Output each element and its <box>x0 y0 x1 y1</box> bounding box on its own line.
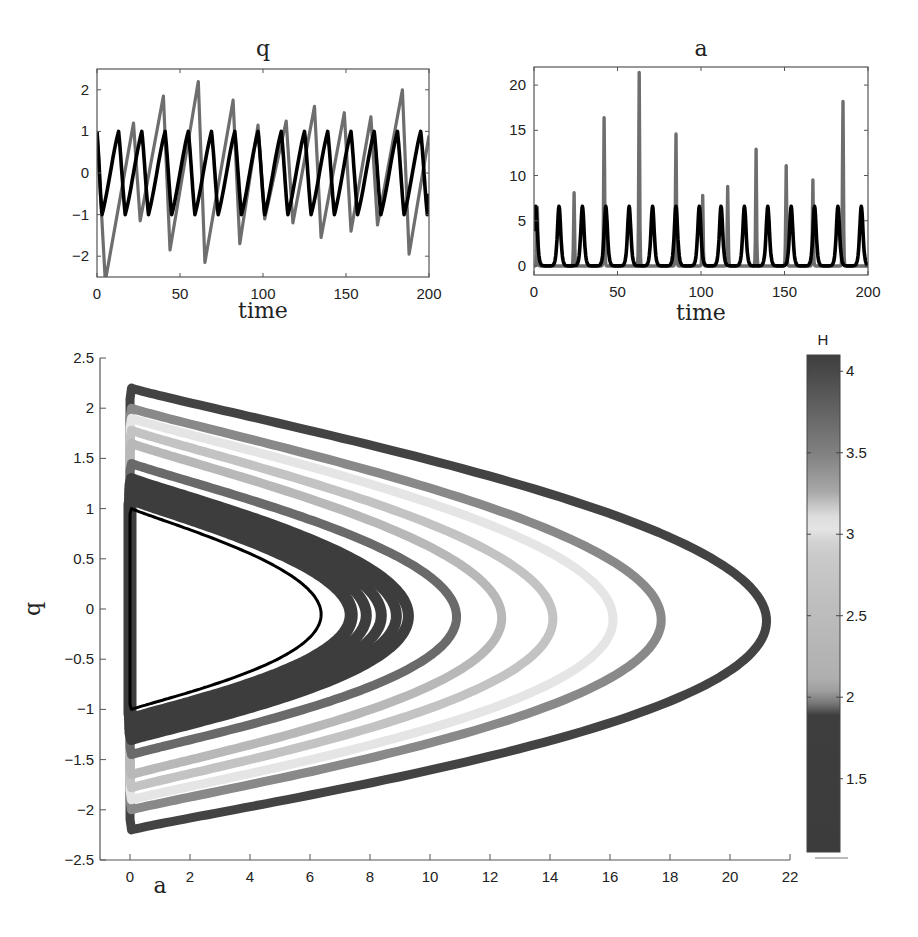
phase-portrait-plot: 0246810121416182022−2.5−2−1.5−1−0.500.51… <box>20 349 798 898</box>
y-tick-label: 5 <box>518 212 526 229</box>
y-tick-label: 2.5 <box>73 349 94 366</box>
x-tick-label: 200 <box>416 285 441 302</box>
y-tick-label: 2 <box>81 81 89 98</box>
x-tick-label: 50 <box>172 285 189 302</box>
x-tick-label: 20 <box>722 868 739 885</box>
y-tick-label: 0 <box>86 600 94 617</box>
y-tick-label: 1.5 <box>73 449 94 466</box>
x-tick-label: 150 <box>772 283 797 300</box>
y-tick-label: 2 <box>86 399 94 416</box>
x-tick-label: 100 <box>688 283 713 300</box>
colorbar-tick-label: 3 <box>846 525 854 542</box>
q-plot-xlabel: time <box>238 298 288 323</box>
x-tick-label: 2 <box>186 868 194 885</box>
x-tick-label: 0 <box>126 868 134 885</box>
x-tick-label: 150 <box>333 285 358 302</box>
y-tick-label: 10 <box>509 167 526 184</box>
colorbar-tick-label: 2.5 <box>846 607 867 624</box>
x-tick-label: 12 <box>482 868 499 885</box>
y-tick-label: 0.5 <box>73 550 94 567</box>
x-tick-label: 18 <box>662 868 679 885</box>
x-tick-label: 6 <box>306 868 314 885</box>
a-plot-xlabel: time <box>676 300 726 325</box>
y-tick-label: 20 <box>509 76 526 93</box>
colorbar-tick-label: 4 <box>846 362 854 379</box>
y-tick-label: −2 <box>72 247 89 264</box>
figure: q 050100150200−2−1012 time a 05010015020… <box>0 0 918 937</box>
y-tick-label: −2 <box>77 801 94 818</box>
y-tick-label: −1.5 <box>64 751 94 768</box>
y-tick-label: −0.5 <box>64 650 94 667</box>
phase-orbits <box>130 388 767 830</box>
y-tick-label: 0 <box>518 257 526 274</box>
phase-xlabel: a <box>153 873 166 898</box>
x-tick-label: 14 <box>542 868 559 885</box>
colorbar-tick-label: 3.5 <box>846 444 867 461</box>
x-tick-label: 50 <box>609 283 626 300</box>
y-tick-label: 1 <box>86 500 94 517</box>
x-tick-label: 0 <box>93 285 101 302</box>
periodic-series-line <box>97 131 429 214</box>
colorbar-tick-label: 1.5 <box>846 770 867 787</box>
x-tick-label: 16 <box>602 868 619 885</box>
q-plot-title: q <box>256 36 270 61</box>
y-tick-label: 1 <box>81 122 89 139</box>
x-tick-label: 200 <box>855 283 880 300</box>
y-tick-label: 0 <box>81 164 89 181</box>
colorbar-gradient <box>807 355 840 852</box>
a-plot-series <box>534 72 868 266</box>
x-tick-label: 8 <box>366 868 374 885</box>
colorbar: H 1.522.533.54 <box>807 331 867 858</box>
y-tick-label: −1 <box>72 206 89 223</box>
q-plot-series <box>97 82 429 282</box>
colorbar-label: H <box>818 331 829 348</box>
y-tick-label: −1 <box>77 700 94 717</box>
y-tick-label: −2.5 <box>64 851 94 868</box>
x-tick-label: 0 <box>530 283 538 300</box>
a-plot-title: a <box>694 36 707 61</box>
q-time-plot: q 050100150200−2−1012 time <box>72 36 442 323</box>
colorbar-tick-label: 2 <box>846 688 854 705</box>
x-tick-label: 4 <box>246 868 254 885</box>
a-time-plot: a 05010015020005101520 time <box>509 36 880 325</box>
y-tick-label: 15 <box>509 121 526 138</box>
phase-ylabel: q <box>20 602 45 616</box>
x-tick-label: 22 <box>782 868 799 885</box>
x-tick-label: 10 <box>422 868 439 885</box>
